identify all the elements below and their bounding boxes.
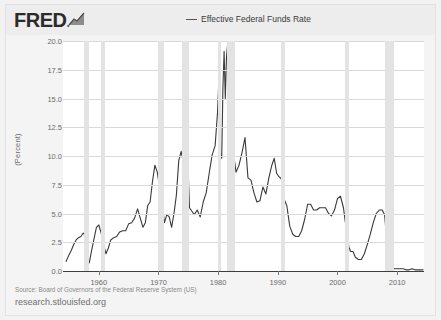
recession-band [385, 41, 395, 271]
x-axis-tick-label: 1990 [269, 278, 286, 287]
recession-band [227, 41, 235, 271]
x-axis-tick-label: 2010 [389, 278, 406, 287]
x-axis-tick-mark [397, 271, 398, 275]
recession-band [281, 41, 285, 271]
x-axis-tick-mark [218, 271, 219, 275]
y-axis-tick-label: 0.0 [28, 267, 62, 276]
y-axis-tick-label: 7.5 [28, 181, 62, 190]
y-axis-label: (Percent) [13, 115, 22, 185]
x-axis-tick-mark [278, 271, 279, 275]
y-axis-tick-label: 17.5 [28, 66, 62, 75]
y-axis-tick-label: 5.0 [28, 210, 62, 219]
y-axis-tick-label: 12.5 [28, 123, 62, 132]
chart-legend: Effective Federal Funds Rate [186, 14, 311, 24]
recession-band [182, 41, 190, 271]
x-axis-tick-mark [158, 271, 159, 275]
x-axis-tick-mark [99, 271, 100, 275]
source-note: Source: Board of Governors of the Federa… [15, 286, 197, 293]
recession-band [158, 41, 164, 271]
plot-area-wrapper: (Percent) 0.02.55.07.510.012.515.017.520… [6, 35, 435, 280]
y-axis-tick-label: 10.0 [28, 152, 62, 161]
fred-logo[interactable]: FRED. [14, 10, 69, 33]
recession-band [84, 41, 88, 271]
fred-logo-text: FRED [14, 9, 66, 31]
legend-label: Effective Federal Funds Rate [201, 14, 311, 24]
gridline [63, 99, 424, 100]
gridline [63, 214, 424, 215]
gridline [63, 242, 424, 243]
x-axis-tick-label: 1980 [210, 278, 227, 287]
y-axis-ticks: 0.02.55.07.510.012.515.017.520.0 [24, 35, 62, 280]
legend-line-swatch [186, 19, 197, 20]
gridline [63, 127, 424, 128]
gridline [63, 156, 424, 157]
recession-band [218, 41, 221, 271]
gridline [63, 41, 424, 42]
y-axis-tick-label: 2.5 [28, 238, 62, 247]
chart-frame: FRED. Effective Federal Funds Rate (Perc… [5, 4, 436, 316]
y-axis-tick-label: 15.0 [28, 95, 62, 104]
source-url[interactable]: research.stlouisfed.org [15, 297, 106, 307]
x-axis-tick-label: 2000 [329, 278, 346, 287]
recession-band [101, 41, 106, 271]
gridline [63, 185, 424, 186]
x-axis-tick-mark [337, 271, 338, 275]
y-axis-tick-label: 20.0 [28, 37, 62, 46]
fred-chart-card: FRED. Effective Federal Funds Rate (Perc… [0, 0, 441, 320]
plot-canvas [63, 41, 424, 271]
chart-header: FRED. Effective Federal Funds Rate [6, 5, 435, 35]
gridline [63, 70, 424, 71]
line-chart-icon [68, 12, 86, 26]
x-axis-line [63, 271, 424, 272]
recession-band [345, 41, 349, 271]
